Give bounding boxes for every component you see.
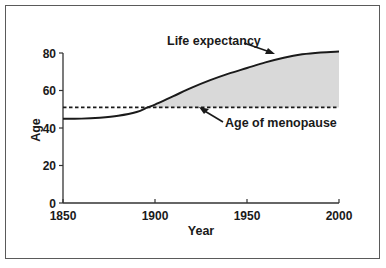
y-axis-title: Age: [29, 118, 43, 142]
x-tick-label: 2000: [326, 209, 353, 223]
y-tick-label: 40: [43, 122, 57, 136]
y-tick-label: 80: [43, 47, 57, 61]
x-tick-label: 1950: [234, 209, 261, 223]
life-expectancy-chart: 020406080 1850190019502000 Age Year Life…: [0, 0, 386, 268]
y-ticks: 020406080: [43, 47, 63, 211]
menopause-label: Age of menopause: [225, 116, 337, 130]
menopause-arrow-icon: [199, 107, 223, 122]
x-axis-title: Year: [188, 224, 215, 238]
life-expectancy-label: Life expectancy: [167, 34, 261, 48]
gap-shaded-area: [148, 52, 339, 108]
y-tick-label: 60: [43, 84, 57, 98]
y-tick-label: 20: [43, 159, 57, 173]
shaded-gap-region: [148, 52, 339, 108]
x-tick-label: 1850: [50, 209, 77, 223]
x-tick-label: 1900: [142, 209, 169, 223]
